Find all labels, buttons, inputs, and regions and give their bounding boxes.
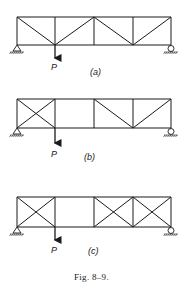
truss-figure: P (a) P (b): [0, 0, 188, 284]
load-label: P: [51, 149, 57, 159]
truss-c: P (c): [10, 197, 179, 256]
pin-support-icon: [10, 128, 25, 137]
figure-caption: Fig. 8–9.: [74, 272, 109, 282]
pin-support-icon: [10, 45, 25, 54]
subfigure-label: (c): [88, 246, 99, 256]
diagonal-member: [133, 99, 171, 128]
diagonal-member: [94, 99, 133, 128]
roller-support-icon: [164, 46, 179, 55]
subfigure-label: (a): [90, 67, 101, 77]
diagonal-member: [17, 17, 55, 45]
diagonal-member: [55, 17, 94, 45]
diagonal-member: [94, 17, 133, 45]
subfigure-label: (b): [84, 152, 95, 162]
load-label: P: [51, 245, 57, 255]
roller-support-icon: [164, 228, 179, 237]
truss-b: P (b): [10, 99, 179, 162]
roller-support-icon: [164, 129, 179, 138]
pin-support-icon: [10, 227, 25, 236]
diagonal-member: [133, 17, 171, 45]
truss-a: P (a): [10, 17, 179, 77]
load-label: P: [51, 62, 57, 72]
